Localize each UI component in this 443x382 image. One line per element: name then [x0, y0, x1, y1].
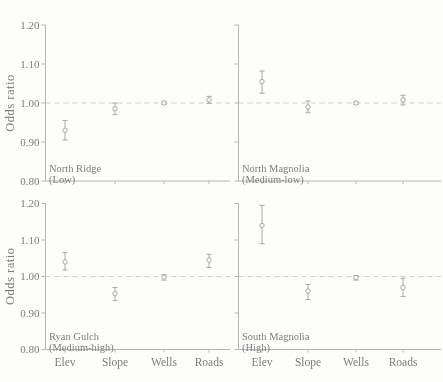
panel-north-magnolia: North Magnolia(Medium-low)	[235, 25, 442, 186]
y-tick-label: 1.00	[20, 97, 40, 109]
x-category-label-roads: Roads	[195, 356, 224, 368]
panel-level-label: (Medium-low)	[242, 174, 304, 186]
panel-site-label: Ryan Gulch	[49, 331, 100, 342]
panel-south-magnolia: ElevSlopeWellsRoadsSouth Magnolia(High)	[235, 203, 442, 369]
x-category-label-elev: Elev	[251, 356, 272, 368]
point-ryan-gulch-roads	[206, 254, 211, 267]
odds-ratio-marker	[260, 79, 264, 83]
point-ryan-gulch-slope	[112, 287, 117, 300]
y-tick-label: 1.10	[20, 58, 40, 70]
panel-site-label: North Magnolia	[242, 163, 310, 174]
panel-level-label: (Medium-high)	[49, 342, 114, 354]
point-north-ridge-wells	[161, 101, 166, 105]
panel-level-label: (High)	[242, 342, 270, 354]
odds-ratio-marker	[162, 275, 166, 279]
x-category-label-slope: Slope	[295, 356, 321, 369]
y-tick-label: 0.80	[20, 175, 40, 187]
point-ryan-gulch-elev	[62, 252, 67, 270]
panel-site-label: North Ridge	[49, 163, 102, 174]
x-category-label-elev: Elev	[54, 356, 75, 368]
odds-ratio-marker	[354, 275, 358, 279]
point-north-magnolia-elev	[259, 71, 264, 93]
panel-north-ridge: 1.201.101.000.900.80North Ridge(Low)	[20, 19, 230, 187]
odds-ratio-marker	[306, 289, 310, 293]
panel-level-label: (Low)	[49, 174, 76, 186]
point-south-magnolia-slope	[305, 285, 310, 300]
odds-ratio-marker	[207, 98, 211, 102]
point-ryan-gulch-wells	[161, 275, 166, 280]
point-north-magnolia-roads	[400, 95, 405, 105]
x-category-label-wells: Wells	[343, 356, 369, 368]
y-axis-title: Odds ratio	[3, 248, 17, 305]
point-north-ridge-elev	[62, 121, 67, 141]
point-south-magnolia-wells	[353, 275, 358, 280]
y-tick-label: 1.00	[20, 270, 40, 282]
y-tick-label: 1.20	[20, 197, 40, 209]
odds-ratio-marker	[354, 101, 358, 105]
y-tick-label: 0.90	[20, 307, 40, 319]
panel-ryan-gulch: 1.201.101.000.900.80ElevSlopeWellsRoadsR…	[20, 197, 230, 369]
odds-ratio-marker	[401, 98, 405, 102]
odds-ratio-marker	[113, 107, 117, 111]
odds-ratio-figure: Odds ratioOdds ratio1.201.101.000.900.80…	[0, 0, 443, 382]
point-south-magnolia-roads	[400, 278, 405, 296]
odds-ratio-marker	[63, 260, 67, 264]
odds-ratio-marker	[113, 291, 117, 295]
panel-site-label: South Magnolia	[242, 331, 310, 342]
odds-ratio-marker	[207, 258, 211, 262]
point-north-ridge-roads	[206, 96, 211, 103]
y-tick-label: 0.90	[20, 136, 40, 148]
odds-ratio-chart-canvas: Odds ratioOdds ratio1.201.101.000.900.80…	[0, 0, 443, 382]
x-category-label-slope: Slope	[102, 356, 128, 369]
odds-ratio-marker	[162, 101, 166, 105]
y-tick-label: 1.10	[20, 234, 40, 246]
x-category-label-roads: Roads	[389, 356, 418, 368]
x-category-label-wells: Wells	[151, 356, 177, 368]
y-tick-label: 0.80	[20, 343, 40, 355]
point-south-magnolia-elev	[259, 205, 264, 243]
y-axis-title: Odds ratio	[3, 74, 17, 131]
point-north-magnolia-wells	[353, 101, 358, 105]
odds-ratio-marker	[401, 285, 405, 289]
odds-ratio-marker	[306, 105, 310, 109]
odds-ratio-marker	[260, 223, 264, 227]
point-north-ridge-slope	[112, 103, 117, 115]
y-tick-label: 1.20	[20, 19, 40, 31]
odds-ratio-marker	[63, 128, 67, 132]
